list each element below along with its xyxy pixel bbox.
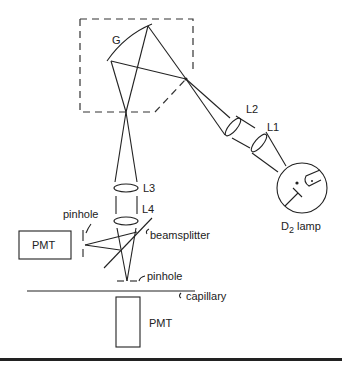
lens-l3	[114, 184, 138, 192]
bottom-pmt	[116, 297, 140, 347]
capillary-label: capillary	[186, 290, 227, 302]
monochromator-rays	[111, 26, 188, 112]
bottom-pinhole-label: pinhole	[147, 270, 182, 282]
lens-l4-label: L4	[142, 203, 154, 215]
lens-l2	[223, 116, 243, 138]
lens-l3-label: L3	[143, 182, 155, 194]
grating-label: G	[112, 34, 121, 46]
optical-diagram: G L2 L1 D2 lamp L3 L4	[0, 0, 342, 370]
side-pmt-label: PMT	[32, 239, 56, 251]
lens-l2-label: L2	[246, 103, 258, 115]
bottom-pinhole	[117, 276, 145, 281]
side-pinhole	[83, 224, 91, 257]
lens-l1	[249, 132, 269, 154]
lens-l1-label: L1	[267, 121, 279, 133]
d2-lamp	[277, 163, 327, 213]
lens-l4	[114, 217, 138, 225]
side-pinhole-label: pinhole	[63, 208, 98, 220]
detection-rays	[115, 112, 137, 281]
bottom-rule	[0, 358, 342, 361]
beamsplitter-label: beamsplitter	[150, 229, 210, 241]
bottom-pmt-label: PMT	[149, 317, 173, 329]
lamp-label: D2 lamp	[281, 220, 321, 235]
